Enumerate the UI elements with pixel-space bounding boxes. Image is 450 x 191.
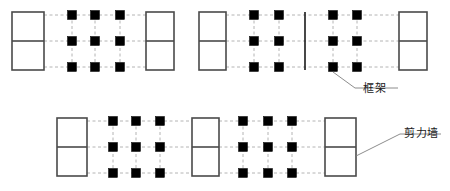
structural-plan-diagram: 框架 剪力墙	[0, 0, 450, 191]
frame-column-joint	[132, 117, 141, 126]
frame-column-joint	[116, 37, 125, 46]
frame-column-joint	[68, 63, 77, 72]
frame-column-joint	[156, 117, 165, 126]
frame-column-joint	[132, 143, 141, 152]
shear-wall-annotation-label: 剪力墙	[404, 124, 439, 140]
frame-column-joint	[329, 11, 338, 20]
frame-column-joint	[329, 37, 338, 46]
frame-column-joint	[250, 63, 259, 72]
frame-column-joint	[91, 37, 100, 46]
frame-column-joint	[68, 11, 77, 20]
frame-column-joint	[109, 143, 118, 152]
frame-column-joint	[353, 63, 362, 72]
frame-column-joint	[288, 117, 297, 126]
frame-column-joint	[156, 143, 165, 152]
frame-column-joint	[239, 143, 248, 152]
frame-column-joint	[264, 169, 273, 178]
frame-column-joint	[264, 117, 273, 126]
frame-annotation-label: 框架	[363, 79, 386, 95]
frame-column-joint	[275, 37, 284, 46]
frame-column-joint	[353, 37, 362, 46]
frame-column-joint	[264, 143, 273, 152]
frame-column-joint	[275, 11, 284, 20]
frame-column-joint	[132, 169, 141, 178]
frame-column-joint	[239, 169, 248, 178]
frame-column-joint	[250, 11, 259, 20]
frame-column-joint	[275, 63, 284, 72]
frame-column-joint	[239, 117, 248, 126]
diagram-canvas	[0, 0, 450, 191]
frame-column-joint	[68, 37, 77, 46]
frame-column-joint	[91, 63, 100, 72]
frame-column-joint	[329, 63, 338, 72]
frame-column-joint	[353, 11, 362, 20]
frame-column-joint	[156, 169, 165, 178]
frame-column-joint	[109, 117, 118, 126]
frame-column-joint	[288, 143, 297, 152]
frame-column-joint	[250, 37, 259, 46]
frame-column-joint	[116, 63, 125, 72]
frame-column-joint	[116, 11, 125, 20]
frame-column-joint	[288, 169, 297, 178]
frame-column-joint	[91, 11, 100, 20]
frame-column-joint	[109, 169, 118, 178]
